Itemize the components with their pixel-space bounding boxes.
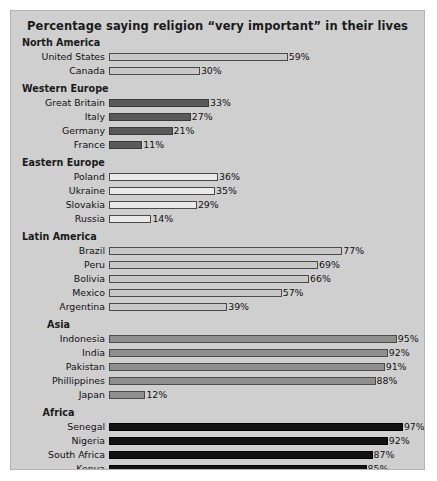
bar bbox=[109, 215, 151, 223]
group-heading: Eastern Europe bbox=[11, 156, 424, 170]
chart-row: Indonesia95% bbox=[11, 332, 424, 346]
bar-value-label: 12% bbox=[145, 388, 167, 402]
bar bbox=[109, 349, 388, 357]
bar bbox=[109, 173, 218, 181]
bar-area: 77% bbox=[109, 244, 424, 258]
bar bbox=[109, 303, 227, 311]
bar-area: 30% bbox=[109, 64, 424, 78]
bar-value-label: 30% bbox=[200, 64, 222, 78]
bar-area: 97% bbox=[109, 420, 424, 434]
row-label: Canada bbox=[11, 64, 109, 78]
row-label: Slovakia bbox=[11, 198, 109, 212]
bar bbox=[109, 67, 200, 75]
chart-group: AfricaSenegal97%Nigeria92%South Africa87… bbox=[11, 406, 424, 470]
row-label: Senegal bbox=[11, 420, 109, 434]
bar-area: 21% bbox=[109, 124, 424, 138]
chart-title: Percentage saying religion “very importa… bbox=[11, 11, 424, 36]
row-label: Argentina bbox=[11, 300, 109, 314]
bar-area: 69% bbox=[109, 258, 424, 272]
row-label: Pakistan bbox=[11, 360, 109, 374]
bar-value-label: 27% bbox=[191, 110, 213, 124]
bar bbox=[109, 423, 403, 431]
row-label: Bolivia bbox=[11, 272, 109, 286]
chart-row: Phillippines88% bbox=[11, 374, 424, 388]
chart-panel: Percentage saying religion “very importa… bbox=[10, 10, 425, 470]
chart-row: Peru69% bbox=[11, 258, 424, 272]
bar-value-label: 92% bbox=[388, 346, 410, 360]
bar-value-label: 92% bbox=[388, 434, 410, 448]
group-heading: North America bbox=[11, 36, 424, 50]
chart-row: South Africa87% bbox=[11, 448, 424, 462]
bar-area: 35% bbox=[109, 184, 424, 198]
row-label: South Africa bbox=[11, 448, 109, 462]
chart-row: France11% bbox=[11, 138, 424, 152]
chart-row: United States59% bbox=[11, 50, 424, 64]
row-label: France bbox=[11, 138, 109, 152]
row-label: Poland bbox=[11, 170, 109, 184]
chart-row: Italy27% bbox=[11, 110, 424, 124]
group-heading: Africa bbox=[11, 406, 106, 420]
row-label: Great Britain bbox=[11, 96, 109, 110]
chart-row: Canada30% bbox=[11, 64, 424, 78]
group-heading: Latin America bbox=[11, 230, 424, 244]
bar bbox=[109, 127, 173, 135]
bar bbox=[109, 363, 385, 371]
bar-area: 95% bbox=[109, 332, 424, 346]
bar bbox=[109, 247, 342, 255]
bar-value-label: 11% bbox=[142, 138, 164, 152]
row-label: Russia bbox=[11, 212, 109, 226]
bar-area: 29% bbox=[109, 198, 424, 212]
chart-row: Nigeria92% bbox=[11, 434, 424, 448]
bar bbox=[109, 335, 397, 343]
chart-row: Senegal97% bbox=[11, 420, 424, 434]
chart-row: India92% bbox=[11, 346, 424, 360]
bar-value-label: 33% bbox=[209, 96, 231, 110]
bar bbox=[109, 275, 309, 283]
chart-row: Great Britain33% bbox=[11, 96, 424, 110]
bar bbox=[109, 99, 209, 107]
row-label: Peru bbox=[11, 258, 109, 272]
bar-area: 27% bbox=[109, 110, 424, 124]
chart-row: Kenya85% bbox=[11, 462, 424, 470]
bar-area: 88% bbox=[109, 374, 424, 388]
bar-area: 92% bbox=[109, 434, 424, 448]
bar-value-label: 77% bbox=[342, 244, 364, 258]
bar-area: 87% bbox=[109, 448, 424, 462]
chart-row: Mexico57% bbox=[11, 286, 424, 300]
bar bbox=[109, 465, 367, 470]
row-label: Phillippines bbox=[11, 374, 109, 388]
bar-value-label: 57% bbox=[282, 286, 304, 300]
chart-row: Brazil77% bbox=[11, 244, 424, 258]
row-label: India bbox=[11, 346, 109, 360]
row-label: Japan bbox=[11, 388, 109, 402]
bar bbox=[109, 53, 288, 61]
chart-row: Poland36% bbox=[11, 170, 424, 184]
bar-value-label: 59% bbox=[288, 50, 310, 64]
bar bbox=[109, 377, 376, 385]
bar-area: 39% bbox=[109, 300, 424, 314]
row-label: United States bbox=[11, 50, 109, 64]
chart-group: Eastern EuropePoland36%Ukraine35%Slovaki… bbox=[11, 156, 424, 226]
bar bbox=[109, 437, 388, 445]
chart-groups-container: North AmericaUnited States59%Canada30%We… bbox=[11, 36, 424, 470]
bar-area: 36% bbox=[109, 170, 424, 184]
chart-group: AsiaIndonesia95%India92%Pakistan91%Phill… bbox=[11, 318, 424, 402]
row-label: Nigeria bbox=[11, 434, 109, 448]
bar-value-label: 95% bbox=[397, 332, 419, 346]
chart-row: Germany21% bbox=[11, 124, 424, 138]
bar-area: 12% bbox=[109, 388, 424, 402]
bar-value-label: 88% bbox=[376, 374, 398, 388]
bar-area: 85% bbox=[109, 462, 424, 470]
bar-value-label: 91% bbox=[385, 360, 407, 374]
row-label: Kenya bbox=[11, 462, 109, 470]
bar-value-label: 85% bbox=[367, 462, 389, 470]
row-label: Mexico bbox=[11, 286, 109, 300]
bar-value-label: 66% bbox=[309, 272, 331, 286]
chart-row: Argentina39% bbox=[11, 300, 424, 314]
chart-row: Russia14% bbox=[11, 212, 424, 226]
row-label: Indonesia bbox=[11, 332, 109, 346]
chart-group: Western EuropeGreat Britain33%Italy27%Ge… bbox=[11, 82, 424, 152]
bar bbox=[109, 201, 197, 209]
bar bbox=[109, 289, 282, 297]
bar-area: 92% bbox=[109, 346, 424, 360]
